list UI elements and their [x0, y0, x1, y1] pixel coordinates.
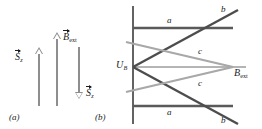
energy-splitting-plot [120, 0, 262, 129]
y-axis-label: UB [116, 60, 127, 70]
arrow-head-up [35, 47, 43, 54]
curve-b-rising [133, 10, 238, 67]
physics-figure: Sz Bext Sz (a) [0, 0, 262, 129]
b-ext-label: Bext [63, 32, 77, 42]
arrow-shaft [38, 54, 40, 106]
panel-a-spin-orientation: Sz Bext Sz (a) [0, 0, 120, 129]
curve-label-b-bottom: b [221, 116, 226, 125]
x-axis-label: Bext [234, 68, 248, 78]
panel-a-tag: (a) [9, 113, 20, 122]
curve-label-b-top: b [221, 5, 226, 14]
curve-label-a-top: a [167, 16, 172, 25]
curve-label-a-bottom: a [167, 108, 172, 117]
arrow-shaft [56, 39, 58, 106]
panel-b-energy-splitting: UB Bext a b c c a b (b) [120, 0, 262, 129]
arrow-head-down [75, 92, 83, 99]
arrow-head-up [53, 32, 61, 39]
curve-label-c-upper: c [198, 47, 202, 56]
spin-down-right-label: Sz [86, 88, 93, 98]
arrow-shaft [78, 47, 80, 92]
curve-label-c-lower: c [198, 79, 202, 88]
spin-up-left-label: Sz [15, 52, 22, 62]
panel-b-tag: (b) [95, 113, 106, 122]
